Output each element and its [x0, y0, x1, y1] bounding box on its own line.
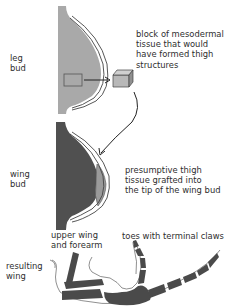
graft-arrow	[99, 92, 138, 155]
label-wing-bud: wing bud	[10, 169, 30, 189]
label-toes-claws: toes with terminal claws	[122, 231, 224, 241]
label-leg-bud: leg bud	[10, 53, 26, 73]
mesoderm-block-cube	[113, 70, 133, 87]
label-resulting-wing: resulting wing	[6, 261, 43, 281]
label-graft-description: presumptive thigh tissue grafted into th…	[125, 165, 221, 196]
wing-bud-shape	[56, 122, 109, 230]
label-upper-wing-forearm: upper wing and forearm	[51, 230, 103, 250]
label-block-description: block of mesodermal tissue that would ha…	[136, 29, 224, 70]
leg-bud-shape	[58, 6, 108, 114]
